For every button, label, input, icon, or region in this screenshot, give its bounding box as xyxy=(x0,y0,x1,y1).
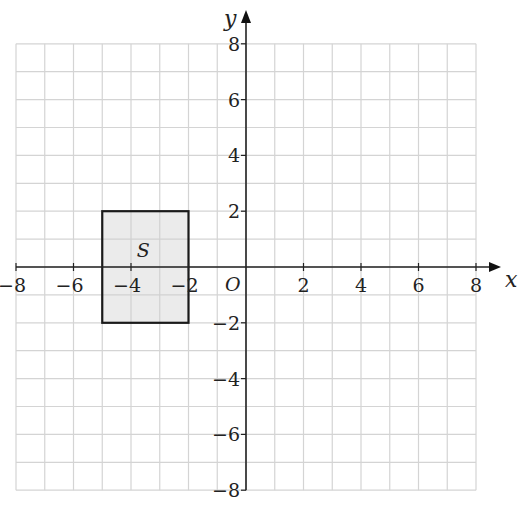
y-tick-label: −8 xyxy=(212,479,240,501)
y-tick-label: −2 xyxy=(212,312,240,334)
origin-label: O xyxy=(225,273,241,295)
x-tick-label: 8 xyxy=(470,274,482,296)
y-tick-label: 2 xyxy=(228,200,240,222)
x-tick-label: 2 xyxy=(297,274,309,296)
shape-s-label: S xyxy=(137,239,150,261)
x-tick-label: 6 xyxy=(412,274,424,296)
x-axis-arrow-icon xyxy=(489,262,501,272)
x-tick-label: 4 xyxy=(355,274,367,296)
x-tick-label: −2 xyxy=(170,274,198,296)
x-tick-label: −8 xyxy=(0,274,26,296)
y-axis-label: y xyxy=(223,6,237,31)
x-tick-label: −6 xyxy=(55,274,83,296)
x-axis-label: x xyxy=(505,267,518,292)
x-tick-label: −4 xyxy=(113,274,141,296)
axes xyxy=(16,10,501,490)
y-tick-label: −6 xyxy=(212,423,240,445)
y-tick-label: 6 xyxy=(228,89,240,111)
y-tick-label: 8 xyxy=(228,33,240,55)
coordinate-grid-diagram: S −8−6−4−224688642−2−4−6−8 x y O xyxy=(0,0,522,513)
y-tick-label: 4 xyxy=(228,144,240,166)
y-tick-label: −4 xyxy=(212,368,240,390)
y-axis-arrow-icon xyxy=(241,10,251,23)
